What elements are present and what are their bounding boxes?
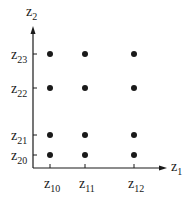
label-sub: 21	[17, 135, 27, 146]
x-axis-arrow-icon	[159, 166, 167, 171]
point	[82, 152, 88, 158]
y-axis-arrow-icon	[31, 26, 36, 34]
y-tick-label-z23: z23	[11, 48, 27, 62]
label-sub: 10	[50, 183, 60, 194]
label-sub: 20	[17, 155, 27, 166]
x-tick-label-z12: z12	[128, 177, 144, 191]
point	[131, 85, 137, 91]
y-tick-label-z21: z21	[11, 129, 27, 143]
label-sub: 22	[17, 88, 27, 99]
point	[82, 51, 88, 57]
label-sub: 2	[32, 11, 37, 22]
x-axis-label: z1	[171, 160, 182, 174]
point	[82, 85, 88, 91]
point	[131, 51, 137, 57]
point	[47, 132, 53, 138]
label-sub: 1	[177, 166, 182, 177]
label-sub: 11	[85, 183, 95, 194]
lattice-diagram	[0, 0, 190, 199]
point	[47, 152, 53, 158]
point	[131, 152, 137, 158]
label-sub: 12	[134, 183, 144, 194]
point	[82, 132, 88, 138]
lattice-points	[47, 51, 137, 158]
point	[47, 51, 53, 57]
y-tick-label-z22: z22	[11, 82, 27, 96]
y-tick-label-z20: z20	[11, 149, 27, 163]
x-tick-label-z10: z10	[44, 177, 60, 191]
point	[131, 132, 137, 138]
x-tick-label-z11: z11	[79, 177, 95, 191]
point	[47, 85, 53, 91]
y-axis-label: z2	[26, 5, 37, 19]
label-sub: 23	[17, 54, 27, 65]
